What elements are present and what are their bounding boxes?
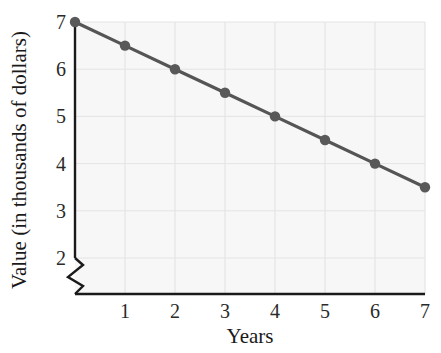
line-chart-canvas: 1234567 765432 Years Value (in thousands… xyxy=(0,0,441,353)
x-tick-label: 4 xyxy=(270,300,280,322)
y-axis-title: Value (in thousands of dollars) xyxy=(7,31,31,289)
x-axis-title: Years xyxy=(227,324,274,348)
x-tick-label: 6 xyxy=(370,300,380,322)
x-tick-label: 3 xyxy=(220,300,230,322)
data-point xyxy=(170,64,180,74)
data-point xyxy=(70,17,80,27)
y-tick-label: 7 xyxy=(56,11,66,33)
data-point xyxy=(420,182,430,192)
data-point xyxy=(270,111,280,121)
data-point xyxy=(370,158,380,168)
y-tick-label: 3 xyxy=(56,200,66,222)
x-tick-label: 7 xyxy=(420,300,430,322)
data-point xyxy=(120,40,130,50)
x-tick-label: 2 xyxy=(170,300,180,322)
y-axis-tick-labels: 765432 xyxy=(56,11,66,269)
y-tick-label: 6 xyxy=(56,58,66,80)
plot-area-background xyxy=(75,22,425,294)
x-tick-label: 5 xyxy=(320,300,330,322)
y-tick-label: 5 xyxy=(56,105,66,127)
x-tick-label: 1 xyxy=(120,300,130,322)
x-axis-tick-labels: 1234567 xyxy=(120,300,430,322)
data-point xyxy=(220,88,230,98)
y-tick-label: 4 xyxy=(56,153,66,175)
y-tick-label: 2 xyxy=(56,247,66,269)
chart-figure: 1234567 765432 Years Value (in thousands… xyxy=(0,0,441,353)
data-point xyxy=(320,135,330,145)
